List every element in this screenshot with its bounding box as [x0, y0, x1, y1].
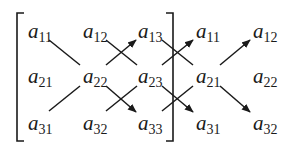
sarrus-diagram: a11a12a13a21a22a23a31a32a33a11a12a21a22a…	[0, 0, 290, 145]
matrix-entry-a12: a12	[253, 19, 278, 45]
matrix-entry-a31: a31	[196, 111, 221, 137]
matrix-entries: a11a12a13a21a22a23a31a32a33a11a12a21a22a…	[28, 19, 278, 137]
matrix-entry-a33: a33	[138, 111, 163, 137]
matrix-entry-a21: a21	[28, 64, 53, 90]
left-bracket	[17, 13, 24, 141]
matrix-entry-a31: a31	[28, 111, 53, 137]
matrix-entry-a11: a11	[196, 19, 220, 45]
matrix-entry-a13: a13	[138, 19, 163, 45]
right-bracket	[166, 13, 173, 141]
matrix-entry-a22: a22	[83, 64, 108, 90]
matrix-entry-a23: a23	[138, 64, 163, 90]
matrix-entry-a12: a12	[83, 19, 108, 45]
matrix-entry-a22: a22	[253, 64, 278, 90]
matrix-entry-a11: a11	[28, 19, 52, 45]
matrix-entry-a32: a32	[83, 111, 108, 137]
matrix-entry-a21: a21	[196, 64, 221, 90]
matrix-entry-a32: a32	[253, 111, 278, 137]
